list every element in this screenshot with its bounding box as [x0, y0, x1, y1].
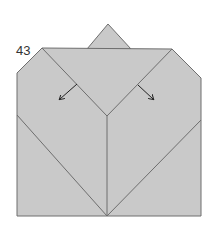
paper-body — [17, 48, 201, 216]
top-flap-triangle — [87, 24, 131, 49]
origami-diagram: 43 — [0, 0, 218, 225]
step-number-label: 43 — [16, 44, 30, 57]
